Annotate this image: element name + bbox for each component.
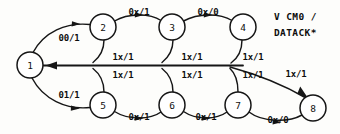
state-transition-diagram: 1 2 3 4 5 6 7 8 <box>0 0 340 134</box>
node-2-label: 2 <box>100 22 106 33</box>
edge-6-to-1-path <box>162 69 173 93</box>
node-3[interactable]: 3 <box>159 14 185 40</box>
edge-label-5-to-6: 0x/1 <box>129 112 150 122</box>
edge-4-to-1-path <box>231 40 242 63</box>
node-8[interactable]: 8 <box>300 95 326 121</box>
edge-1-to-2-arrowhead <box>72 21 81 26</box>
node-5[interactable]: 5 <box>90 92 116 118</box>
return-trunk <box>44 61 244 69</box>
node-7[interactable]: 7 <box>225 92 251 118</box>
edge-5-to-1-path <box>93 69 104 93</box>
edge-label-7-to-8: 0x/0 <box>268 115 289 125</box>
edge-3-to-1-path <box>162 40 173 63</box>
annotation-line-1: V CM0 / <box>274 11 317 22</box>
edge-7-to-1-path <box>230 69 238 93</box>
node-3-label: 3 <box>169 22 175 33</box>
edge-label-1-to-2: 00/1 <box>59 33 80 43</box>
edge-label-1-to-5: 01/1 <box>59 90 80 100</box>
annotation-line-2: DATACK* <box>274 27 317 38</box>
node-8-label: 8 <box>310 103 316 114</box>
edge-label-3-to-1: 1x/1 <box>182 52 203 62</box>
edge-7-to-1 <box>230 69 238 93</box>
edge-5-to-1 <box>93 69 104 93</box>
edge-label-6-to-7: 0x/1 <box>196 112 217 122</box>
node-1[interactable]: 1 <box>17 52 43 78</box>
node-2[interactable]: 2 <box>90 14 116 40</box>
node-1-label: 1 <box>27 60 33 71</box>
return-trunk-arrowhead <box>46 61 58 69</box>
edge-2-to-1 <box>93 40 104 63</box>
edge-label-2-to-1: 1x/1 <box>113 52 134 62</box>
edge-4-to-1 <box>231 40 242 63</box>
edge-2-to-1-path <box>93 40 104 63</box>
edge-label-6-to-1: 1x/1 <box>182 70 203 80</box>
node-5-label: 5 <box>100 100 106 111</box>
edge-3-to-1 <box>162 40 173 63</box>
node-6-label: 6 <box>169 100 175 111</box>
edge-label-5-to-1: 1x/1 <box>113 70 134 80</box>
edge-label-7-to-1: 1x/1 <box>243 70 264 80</box>
node-4[interactable]: 4 <box>230 14 256 40</box>
node-7-label: 7 <box>235 100 241 111</box>
edge-label-3-to-4: 0x/0 <box>198 7 219 17</box>
diagram-canvas: 1 2 3 4 5 6 7 8 <box>0 0 340 134</box>
node-4-label: 4 <box>240 22 246 33</box>
edge-label-junction-to-8: 1x/1 <box>286 69 307 79</box>
node-6[interactable]: 6 <box>159 92 185 118</box>
edge-label-2-to-3: 0x/1 <box>129 7 150 17</box>
edge-6-to-1 <box>162 69 173 93</box>
edge-label-4-to-1: 1x/1 <box>243 52 264 62</box>
edge-1-to-5-arrowhead <box>71 106 80 111</box>
